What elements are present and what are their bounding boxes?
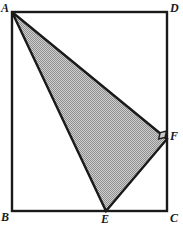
vertex-label-d: D: [170, 2, 179, 14]
geometry-canvas: [0, 0, 183, 228]
vertex-label-f: F: [170, 130, 178, 142]
geometry-figure: A D F B E C: [0, 0, 183, 228]
vertex-label-a: A: [1, 2, 9, 14]
right-angle-marker-F: [159, 131, 167, 139]
vertex-label-b: B: [1, 211, 9, 223]
vertex-label-c: C: [170, 212, 178, 224]
shaded-triangle-AEF: [12, 12, 167, 211]
vertex-label-e: E: [101, 213, 109, 225]
